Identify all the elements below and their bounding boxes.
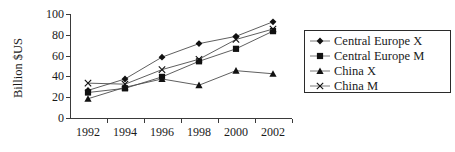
series-central-europe-m [85, 28, 276, 96]
plot-series-layer [84, 18, 276, 101]
x-tick-label: 2000 [224, 125, 248, 139]
chart-legend: Central Europe X Central Europe M China … [305, 31, 451, 94]
triangle-marker [84, 95, 91, 102]
square-marker [317, 53, 323, 59]
square-marker [233, 46, 239, 52]
x-tick-labels: 1992 1994 1996 1998 2000 2002 [76, 125, 285, 139]
legend-label: China X [334, 64, 376, 78]
y-tick-label: 100 [46, 7, 64, 21]
series-china-m [85, 26, 276, 88]
square-marker [85, 89, 91, 95]
series-line [88, 71, 273, 99]
x-tick-label: 1996 [150, 125, 174, 139]
y-tick-labels: 0 20 40 60 80 100 [46, 7, 64, 125]
legend-label: Central Europe M [334, 49, 424, 63]
x-tick-label: 1992 [76, 125, 100, 139]
legend-label: China M [334, 79, 378, 93]
x-tick-label: 2002 [261, 125, 285, 139]
x-tick-marks [107, 119, 292, 124]
y-tick-label: 0 [58, 111, 64, 125]
x-tick-label: 1994 [113, 125, 137, 139]
y-tick-marks [66, 15, 71, 119]
legend-label: Central Europe X [334, 34, 422, 48]
diamond-marker [270, 18, 277, 25]
line-chart: Billion $US 0 20 40 60 80 100 [0, 0, 455, 152]
series-china-x [84, 67, 276, 102]
series-line [88, 22, 273, 91]
y-tick-label: 80 [52, 28, 64, 42]
y-tick-label: 20 [52, 90, 64, 104]
diamond-marker [159, 54, 166, 61]
diamond-marker [196, 40, 203, 47]
triangle-marker [232, 67, 239, 74]
x-tick-label: 1998 [187, 125, 211, 139]
y-tick-label: 40 [52, 69, 64, 83]
chart-figure: Billion $US 0 20 40 60 80 100 [0, 0, 455, 152]
y-tick-label: 60 [52, 49, 64, 63]
cross-marker [159, 66, 165, 72]
series-line [88, 29, 273, 84]
series-line [88, 31, 273, 92]
y-axis-title: Billion $US [11, 38, 25, 98]
